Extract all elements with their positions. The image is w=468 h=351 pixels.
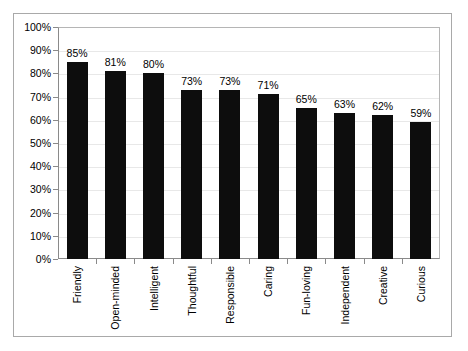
bar <box>181 90 202 259</box>
bars-layer: 85%Friendly81%Open-minded80%Intelligent7… <box>0 0 468 351</box>
bar-data-label: 80% <box>132 58 176 70</box>
x-axis-category-label: Independent <box>335 266 355 344</box>
bar-data-label: 71% <box>246 79 290 91</box>
bar <box>296 108 317 259</box>
bar <box>143 73 164 259</box>
bar <box>410 122 431 259</box>
bar <box>105 71 126 259</box>
x-axis-category-label: Thoughtful <box>182 266 202 344</box>
x-axis-category-label: Intelligent <box>144 266 164 344</box>
bar <box>67 62 88 259</box>
bar-chart: 100%90%80%70%60%50%40%30%20%10%0% 85%Fri… <box>0 0 468 351</box>
x-axis-category-label-text: Open-minded <box>110 266 121 330</box>
x-axis-category-label-text: Thoughtful <box>186 266 197 316</box>
x-axis-tick-mark <box>211 259 212 264</box>
bar <box>334 113 355 259</box>
x-axis-category-label: Curious <box>411 266 431 344</box>
bar <box>372 115 393 259</box>
x-axis-category-label-text: Responsible <box>224 266 235 324</box>
x-axis-tick-mark <box>96 259 97 264</box>
x-axis-tick-mark <box>287 259 288 264</box>
x-axis-category-label-text: Creative <box>377 266 388 305</box>
x-axis-category-label-text: Fun-loving <box>301 266 312 315</box>
x-axis-tick-mark <box>173 259 174 264</box>
x-axis-category-label-text: Independent <box>339 266 350 324</box>
x-axis-tick-mark <box>325 259 326 264</box>
x-axis-category-label-text: Intelligent <box>148 266 159 311</box>
x-axis-category-label: Open-minded <box>105 266 125 344</box>
x-axis-tick-mark <box>364 259 365 264</box>
x-axis-tick-mark <box>134 259 135 264</box>
x-axis-category-label: Responsible <box>220 266 240 344</box>
bar <box>258 94 279 259</box>
x-axis-category-label: Caring <box>258 266 278 344</box>
x-axis-tick-mark <box>249 259 250 264</box>
x-axis-category-label: Friendly <box>67 266 87 344</box>
bar-data-label: 59% <box>399 107 443 119</box>
x-axis-category-label: Creative <box>373 266 393 344</box>
x-axis-tick-mark <box>402 259 403 264</box>
x-axis-category-label-text: Caring <box>263 266 274 297</box>
x-axis-category-label-text: Friendly <box>72 266 83 303</box>
x-axis-category-label: Fun-loving <box>296 266 316 344</box>
bar <box>219 90 240 259</box>
x-axis-category-label-text: Curious <box>415 266 426 302</box>
